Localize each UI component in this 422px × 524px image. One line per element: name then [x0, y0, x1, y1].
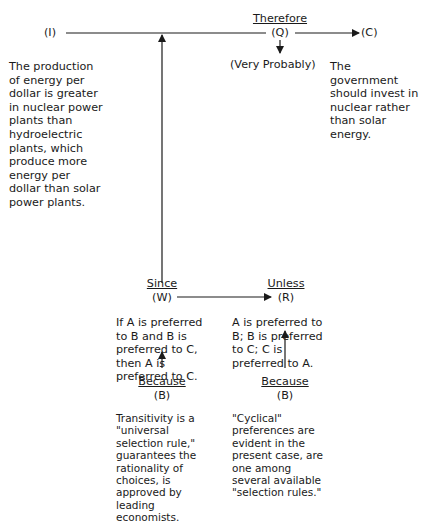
backing-warrant-label: Because	[134, 375, 190, 389]
warrant-text: If A is preferred to B and B is preferre…	[116, 316, 202, 384]
rebuttal-symbol: (R)	[261, 291, 311, 305]
backing-warrant-node: Because (B)	[134, 375, 190, 402]
data-symbol: (I)	[44, 26, 56, 40]
rebuttal-node: Unless (R)	[261, 277, 311, 304]
qualifier-text: (Very Probably)	[230, 58, 316, 72]
backing-rebuttal-text: "Cyclical" preferences are evident in th…	[232, 412, 323, 499]
data-text: The production of energy per dollar is g…	[9, 60, 103, 210]
warrant-label: Since	[137, 277, 187, 291]
rebuttal-text: A is preferred to B; B is preferred to C…	[232, 316, 323, 370]
backing-rebuttal-node: Because (B)	[257, 375, 313, 402]
backing-warrant-symbol: (B)	[134, 389, 190, 403]
claim-text: The government should invest in nuclear …	[330, 60, 422, 142]
backing-warrant-text: Transitivity is a "universal selection r…	[116, 412, 196, 524]
qualifier-label: Therefore	[252, 12, 308, 26]
backing-rebuttal-label: Because	[257, 375, 313, 389]
warrant-node: Since (W)	[137, 277, 187, 304]
rebuttal-label: Unless	[261, 277, 311, 291]
warrant-symbol: (W)	[137, 291, 187, 305]
qualifier-symbol: (Q)	[252, 26, 308, 40]
qualifier-node: Therefore (Q)	[252, 12, 308, 39]
claim-symbol: (C)	[361, 26, 378, 40]
backing-rebuttal-symbol: (B)	[257, 389, 313, 403]
